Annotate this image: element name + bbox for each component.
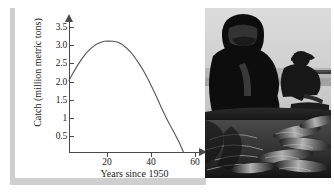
catch-curve [15,5,221,196]
figure-root: 3.5 3.0 2.5 2.0 1.5 1 0.5 20 40 60 Catch… [0,0,334,196]
photo-artwork [205,8,331,178]
fishermen-photo [205,8,331,178]
plot-card: 3.5 3.0 2.5 2.0 1.5 1 0.5 20 40 60 Catch… [15,5,206,178]
chart-panel: 3.5 3.0 2.5 2.0 1.5 1 0.5 20 40 60 Catch… [0,0,206,196]
